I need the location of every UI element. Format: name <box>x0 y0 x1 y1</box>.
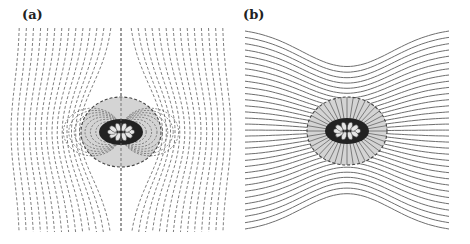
field-lines-diagram-b <box>235 0 470 244</box>
panel-b: (b) <box>235 0 470 244</box>
panel-a: (a) <box>0 0 235 244</box>
field-lines-diagram-a <box>0 0 235 244</box>
panel-label-b: (b) <box>243 7 264 22</box>
panel-label-a: (a) <box>22 7 43 22</box>
